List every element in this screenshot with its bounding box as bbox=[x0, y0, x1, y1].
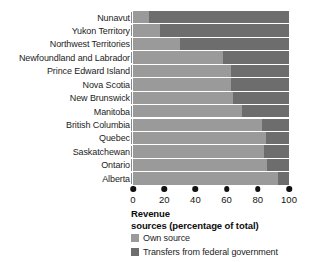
x-axis-tick-dot bbox=[161, 186, 167, 192]
x-axis-tick-dot bbox=[130, 186, 136, 192]
bar-segment-own-source bbox=[133, 132, 266, 144]
category-tick-mark bbox=[131, 106, 132, 118]
bar-segment-own-source bbox=[133, 51, 223, 63]
stacked-bar bbox=[133, 172, 289, 184]
stacked-bar bbox=[133, 38, 289, 50]
bar-segment-transfers bbox=[149, 11, 289, 23]
category-tick-mark bbox=[131, 52, 132, 64]
bar-row: Nova Scotia bbox=[0, 78, 312, 91]
x-axis-tick-label: 40 bbox=[190, 194, 201, 205]
bar-segment-transfers bbox=[160, 24, 289, 36]
stacked-bar bbox=[133, 145, 289, 157]
bar-segment-own-source bbox=[133, 11, 149, 23]
category-label: Yukon Territory bbox=[4, 25, 130, 37]
stacked-bar bbox=[133, 92, 289, 104]
bar-segment-own-source bbox=[133, 105, 242, 117]
category-tick-mark bbox=[131, 79, 132, 91]
category-tick-mark bbox=[131, 65, 132, 77]
bar-row: Saskatchewan bbox=[0, 145, 312, 158]
bar-segment-transfers bbox=[242, 105, 289, 117]
bar-segment-transfers bbox=[264, 145, 289, 157]
x-axis-tick-dot bbox=[193, 186, 199, 192]
bar-row: New Brunswick bbox=[0, 92, 312, 105]
bar-segment-transfers bbox=[278, 172, 289, 184]
category-label: Nunavut bbox=[4, 12, 130, 24]
x-axis-tick-dot bbox=[224, 186, 230, 192]
category-tick-mark bbox=[131, 173, 132, 185]
category-tick-mark bbox=[131, 25, 132, 37]
bar-row: Yukon Territory bbox=[0, 24, 312, 37]
legend-item: Own source bbox=[131, 232, 311, 244]
category-label: British Columbia bbox=[4, 119, 130, 131]
plot-area: NunavutYukon TerritoryNorthwest Territor… bbox=[0, 11, 312, 186]
bar-segment-transfers bbox=[180, 38, 289, 50]
x-axis-tick-label: 100 bbox=[281, 194, 297, 205]
category-label: Alberta bbox=[4, 173, 130, 185]
category-label: Northwest Territories bbox=[4, 38, 130, 50]
stacked-bar bbox=[133, 51, 289, 63]
bar-row: Prince Edward Island bbox=[0, 65, 312, 78]
x-axis-title: Revenue sources (percentage of total) bbox=[131, 208, 311, 231]
stacked-bar bbox=[133, 78, 289, 90]
category-tick-mark bbox=[131, 119, 132, 131]
bar-segment-transfers bbox=[262, 119, 289, 131]
category-tick-mark bbox=[131, 38, 132, 50]
legend-swatch bbox=[131, 248, 139, 256]
chart-legend: Own sourceTransfers from federal governm… bbox=[131, 232, 311, 259]
category-label: Ontario bbox=[4, 159, 130, 171]
category-tick-mark bbox=[131, 12, 132, 24]
bar-segment-own-source bbox=[133, 172, 278, 184]
x-axis-tick-label: 0 bbox=[130, 194, 135, 205]
bar-row: Manitoba bbox=[0, 105, 312, 118]
x-axis-title-line1: Revenue bbox=[131, 208, 311, 220]
category-label: Quebec bbox=[4, 132, 130, 144]
stacked-bar bbox=[133, 119, 289, 131]
stacked-bar bbox=[133, 105, 289, 117]
bar-segment-own-source bbox=[133, 78, 231, 90]
category-label: Saskatchewan bbox=[4, 146, 130, 158]
stacked-bar bbox=[133, 65, 289, 77]
bar-row: Alberta bbox=[0, 172, 312, 185]
x-axis-tick-label: 60 bbox=[221, 194, 232, 205]
x-axis-tick-dot bbox=[286, 186, 292, 192]
stacked-bar bbox=[133, 132, 289, 144]
category-tick-mark bbox=[131, 146, 132, 158]
bar-segment-own-source bbox=[133, 145, 264, 157]
bar-segment-transfers bbox=[231, 65, 289, 77]
category-label: Manitoba bbox=[4, 106, 130, 118]
bar-row: British Columbia bbox=[0, 119, 312, 132]
category-tick-mark bbox=[131, 159, 132, 171]
bar-segment-own-source bbox=[133, 159, 267, 171]
bar-row: Ontario bbox=[0, 159, 312, 172]
stacked-bar bbox=[133, 159, 289, 171]
bar-row: Northwest Territories bbox=[0, 38, 312, 51]
category-label: Nova Scotia bbox=[4, 79, 130, 91]
bar-segment-transfers bbox=[233, 92, 289, 104]
bar-segment-transfers bbox=[267, 159, 289, 171]
x-axis-tick-label: 80 bbox=[253, 194, 264, 205]
bar-segment-transfers bbox=[231, 78, 289, 90]
category-label: New Brunswick bbox=[4, 92, 130, 104]
bar-segment-own-source bbox=[133, 65, 231, 77]
stacked-bar-chart: NunavutYukon TerritoryNorthwest Territor… bbox=[0, 0, 312, 262]
legend-label: Transfers from federal government bbox=[143, 247, 278, 257]
bar-segment-own-source bbox=[133, 119, 262, 131]
legend-label: Own source bbox=[143, 233, 190, 243]
legend-item: Transfers from federal government bbox=[131, 246, 311, 258]
category-tick-mark bbox=[131, 132, 132, 144]
x-axis-tick-dot bbox=[255, 186, 261, 192]
category-tick-mark bbox=[131, 92, 132, 104]
category-label: Prince Edward Island bbox=[4, 65, 130, 77]
bar-segment-own-source bbox=[133, 92, 233, 104]
bar-segment-own-source bbox=[133, 38, 180, 50]
legend-swatch bbox=[131, 234, 139, 242]
bar-row: Newfoundland and Labrador bbox=[0, 51, 312, 64]
category-label: Newfoundland and Labrador bbox=[4, 52, 130, 64]
bar-row: Nunavut bbox=[0, 11, 312, 24]
bar-segment-transfers bbox=[223, 51, 289, 63]
x-axis-title-line2: sources (percentage of total) bbox=[131, 220, 311, 232]
bar-segment-transfers bbox=[266, 132, 289, 144]
stacked-bar bbox=[133, 24, 289, 36]
stacked-bar bbox=[133, 11, 289, 23]
x-axis: 020406080100 bbox=[0, 186, 312, 210]
